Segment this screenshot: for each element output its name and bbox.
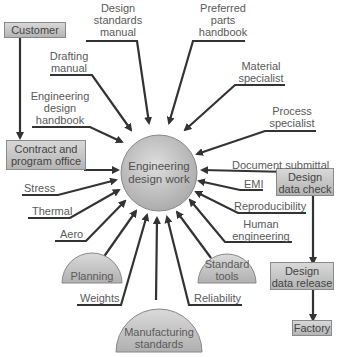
reliability-label: Reliability — [194, 292, 241, 304]
ms-line2: specialist — [235, 72, 287, 84]
he-line2: engineering — [232, 230, 290, 242]
pph-line2: parts — [195, 14, 251, 26]
customer-box: Customer — [4, 22, 66, 38]
weights-label: Weights — [80, 292, 120, 304]
engineering-design-work-label: Engineering design work — [121, 160, 197, 186]
pph-line3: handbook — [195, 26, 251, 38]
ms-line1: Material — [235, 60, 287, 72]
st-line1: Standard — [202, 258, 252, 270]
center-label-line2: design work — [121, 173, 197, 186]
dsm-line2: standards — [88, 14, 148, 26]
design-data-release-box: Design data release — [270, 262, 334, 290]
he-line1: Human — [232, 218, 290, 230]
material-specialist-label: Material specialist — [235, 60, 287, 84]
process-specialist-label: Process specialist — [266, 105, 318, 129]
dm-line1: Drafting — [46, 50, 92, 62]
edh-line1: Engineering — [28, 90, 92, 102]
design-data-release-line1: Design — [271, 265, 333, 277]
contract-label-line2: program office — [7, 155, 85, 167]
mfs-line1: Manufacturing — [120, 326, 198, 338]
dsm-line1: Design — [88, 2, 148, 14]
contract-label-line1: Contract and — [7, 143, 85, 155]
mfs-line2: standards — [120, 338, 198, 350]
human-engineering-label: Human engineering — [232, 218, 290, 242]
drafting-manual-label: Drafting manual — [46, 50, 92, 74]
design-data-release-line2: data release — [271, 277, 333, 289]
pph-line1: Preferred — [195, 2, 251, 14]
stress-label: Stress — [24, 182, 55, 194]
design-data-check-line1: Design — [277, 171, 333, 183]
design-data-check-line2: data check — [277, 183, 333, 195]
design-standards-manual-label: Design standards manual — [88, 2, 148, 38]
preferred-parts-handbook-label: Preferred parts handbook — [195, 2, 251, 38]
engineering-design-handbook-label: Engineering design handbook — [28, 90, 92, 126]
emi-label: EMI — [244, 178, 264, 190]
ps-line2: specialist — [266, 117, 318, 129]
planning-label: Planning — [66, 270, 118, 282]
reproducibility-label: Reproducibility — [234, 200, 306, 212]
dsm-line3: manual — [88, 26, 148, 38]
design-data-check-box: Design data check — [276, 168, 334, 196]
dm-line2: manual — [46, 62, 92, 74]
edh-line3: handbook — [28, 114, 92, 126]
standard-tools-label: Standard tools — [202, 258, 252, 282]
aero-label: Aero — [60, 228, 83, 240]
ps-line1: Process — [266, 105, 318, 117]
manufacturing-standards-label: Manufacturing standards — [120, 326, 198, 350]
customer-label: Customer — [11, 24, 59, 36]
edh-line2: design — [28, 102, 92, 114]
st-line2: tools — [202, 270, 252, 282]
contract-program-office-box: Contract and program office — [6, 140, 86, 170]
center-label-line1: Engineering — [121, 160, 197, 173]
thermal-label: Thermal — [32, 205, 72, 217]
document-submittal-label: Document submittal — [232, 159, 329, 171]
factory-label: Factory — [294, 322, 331, 334]
factory-box: Factory — [292, 320, 332, 336]
